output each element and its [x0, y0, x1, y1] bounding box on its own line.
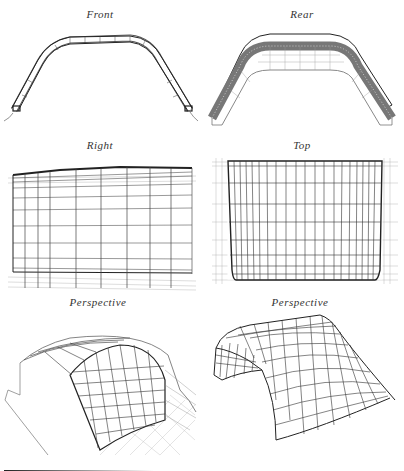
perspective-view-1-drawing	[5, 336, 196, 455]
rear-view-drawing	[212, 34, 392, 125]
wireframe-drawings	[0, 0, 404, 471]
front-view-drawing	[4, 36, 198, 121]
right-view-drawing	[8, 167, 196, 290]
top-view-drawing	[212, 158, 398, 284]
perspective-view-2-drawing	[214, 315, 395, 440]
